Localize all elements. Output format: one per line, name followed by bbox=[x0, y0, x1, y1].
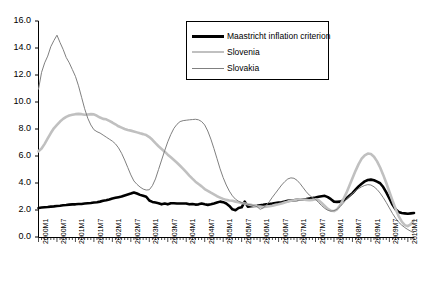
x-tick-label: 2010M1 bbox=[411, 219, 418, 244]
x-tick-label: 2006M1 bbox=[263, 219, 270, 244]
y-tick-label: 10.0 bbox=[0, 97, 31, 106]
legend-label: Slovenia bbox=[225, 47, 260, 57]
x-tick-label: 2005M1 bbox=[226, 219, 233, 244]
y-tick-label: 6.0 bbox=[0, 151, 31, 160]
x-tick-label: 2008M7 bbox=[355, 219, 362, 244]
x-tick-label: 2007M7 bbox=[319, 219, 326, 244]
y-tick-label: 16.0 bbox=[0, 16, 31, 25]
y-tick-label: 12.0 bbox=[0, 70, 31, 79]
x-tick-label: 2006M7 bbox=[282, 219, 289, 244]
legend-item: Slovakia bbox=[191, 60, 324, 76]
x-tick-label: 2003M7 bbox=[171, 219, 178, 244]
x-tick-label: 2001M1 bbox=[78, 219, 85, 244]
x-tick-label: 2007M1 bbox=[300, 219, 307, 244]
x-tick-label: 2001M7 bbox=[97, 219, 104, 244]
x-tick-label: 2008M1 bbox=[337, 219, 344, 244]
legend-label: Slovakia bbox=[225, 63, 259, 73]
x-tick-label: 2000M1 bbox=[42, 219, 49, 244]
legend-item: Slovenia bbox=[191, 44, 324, 60]
x-tick-label: 2009M1 bbox=[374, 219, 381, 244]
x-tick-label: 2005M7 bbox=[245, 219, 252, 244]
legend-line-swatch bbox=[191, 51, 225, 53]
y-tick-label: 0.0 bbox=[0, 232, 31, 241]
y-axis-ticks bbox=[35, 21, 39, 237]
x-tick-label: 2002M1 bbox=[115, 219, 122, 244]
chart-legend: Maastricht inflation criterionSloveniaSl… bbox=[186, 21, 329, 80]
x-tick-label: 2002M7 bbox=[134, 219, 141, 244]
x-tick-label: 2003M1 bbox=[152, 219, 159, 244]
y-tick-label: 2.0 bbox=[0, 205, 31, 214]
x-tick-label: 2009M7 bbox=[392, 219, 399, 244]
y-tick-label: 8.0 bbox=[0, 124, 31, 133]
legend-item: Maastricht inflation criterion bbox=[191, 28, 324, 44]
y-tick-label: 14.0 bbox=[0, 43, 31, 52]
x-tick-label: 2004M1 bbox=[189, 219, 196, 244]
x-tick-label: 2004M7 bbox=[208, 219, 215, 244]
legend-label: Maastricht inflation criterion bbox=[225, 31, 330, 41]
x-tick-label: 2000M7 bbox=[60, 219, 67, 244]
inflation-line-chart: 0.02.04.06.08.010.012.014.016.0 2000M120… bbox=[0, 0, 422, 286]
legend-line-swatch bbox=[191, 35, 225, 38]
y-tick-label: 4.0 bbox=[0, 178, 31, 187]
legend-line-swatch bbox=[191, 68, 225, 69]
